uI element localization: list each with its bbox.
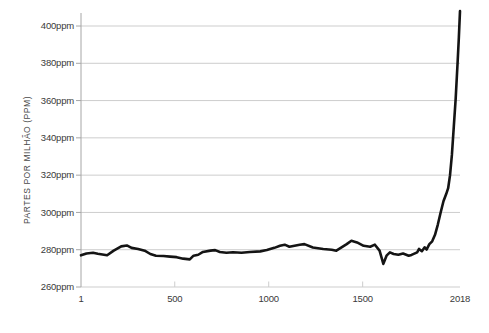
y-axis-label: PARTES POR MILHÃO (PPM) xyxy=(22,96,32,224)
y-tick-label: 280ppm xyxy=(41,244,74,255)
x-tick-label: 500 xyxy=(167,293,182,304)
y-tick-label: 360ppm xyxy=(41,95,74,106)
x-tick-label: 1500 xyxy=(352,293,372,304)
x-tick-label: 2018 xyxy=(450,293,470,304)
y-tick-label: 380ppm xyxy=(41,57,74,68)
y-tick-label: 260ppm xyxy=(41,281,74,292)
plot-area: 260ppm280ppm300ppm320ppm340ppm360ppm380p… xyxy=(0,0,489,333)
x-tick-label: 1000 xyxy=(259,293,279,304)
y-tick-label: 400ppm xyxy=(41,20,74,31)
x-tick-label: 1 xyxy=(78,293,83,304)
y-tick-label: 320ppm xyxy=(41,169,74,180)
y-tick-label: 300ppm xyxy=(41,207,74,218)
co2-line-chart: PARTES POR MILHÃO (PPM) 260ppm280ppm300p… xyxy=(0,0,489,333)
y-tick-label: 340ppm xyxy=(41,132,74,143)
